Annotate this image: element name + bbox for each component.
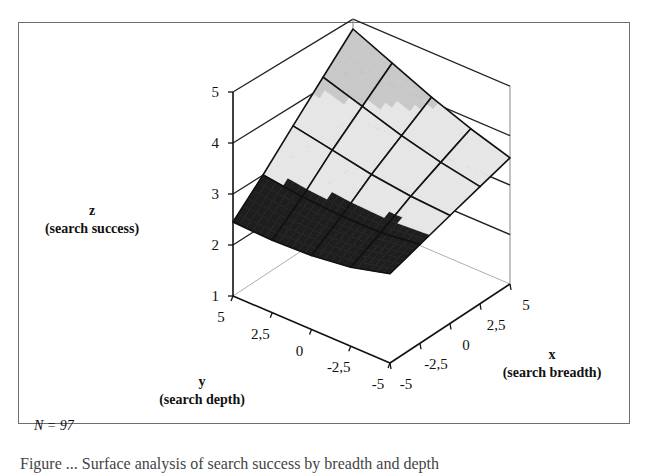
x-tick <box>390 363 391 369</box>
x-axis-title: x <box>549 347 556 362</box>
y-tick-label: -2,5 <box>327 359 351 375</box>
figure-caption: Figure ... Surface analysis of search su… <box>20 455 640 475</box>
x-tick <box>450 324 451 330</box>
x-tick-label: 5 <box>522 297 530 313</box>
z-tick-label: 4 <box>212 135 220 151</box>
x-tick-label: -5 <box>400 376 413 392</box>
z-tick-label: 5 <box>212 84 220 100</box>
z-tick-label: 1 <box>212 288 220 304</box>
x-tick-label: -2,5 <box>424 356 448 372</box>
y-axis-title: y <box>199 374 206 389</box>
y-tick-label: 2,5 <box>251 326 270 342</box>
x-tick-label: 0 <box>462 337 470 353</box>
sample-size-label: N = 97 <box>33 418 75 433</box>
y-tick <box>270 313 272 318</box>
surface-plot <box>233 29 510 274</box>
x-tick <box>510 284 511 290</box>
y-tick-label: -5 <box>372 376 385 392</box>
x-tick <box>480 304 481 310</box>
z-axis-title: z <box>89 203 95 218</box>
y-axis-subtitle: (search depth) <box>159 392 245 408</box>
z-tick-label: 3 <box>212 186 220 202</box>
x-tick-label: 2,5 <box>487 317 506 333</box>
y-tick <box>231 296 233 301</box>
y-tick-label: 5 <box>217 309 225 325</box>
x-tick <box>420 343 421 349</box>
x-axis-subtitle: (search breadth) <box>503 365 602 381</box>
y-tick <box>310 330 312 335</box>
y-tick <box>349 346 351 351</box>
y-tick-label: 0 <box>296 343 304 359</box>
z-axis-subtitle: (search success) <box>45 221 140 237</box>
z-tick-label: 2 <box>212 237 220 253</box>
